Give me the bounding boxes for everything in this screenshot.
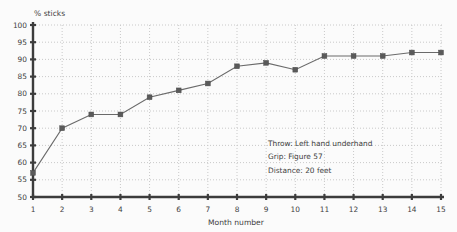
chart-canvas: 5055606570758085909510012345678910111213… bbox=[0, 0, 457, 232]
y-tick-label: 70 bbox=[18, 124, 28, 133]
x-tick-label: 14 bbox=[407, 205, 417, 214]
data-point-marker bbox=[31, 171, 36, 176]
y-tick-label: 85 bbox=[18, 72, 28, 81]
data-point-marker bbox=[176, 88, 181, 93]
y-tick-label: 50 bbox=[18, 193, 28, 202]
y-tick-label: 60 bbox=[18, 158, 28, 167]
x-tick-label: 2 bbox=[60, 205, 65, 214]
y-tick-label: 100 bbox=[13, 21, 27, 30]
axes bbox=[32, 22, 444, 198]
y-tick-label: 90 bbox=[18, 55, 28, 64]
x-tick-label: 10 bbox=[291, 205, 301, 214]
annotation-line: Throw: Left hand underhand bbox=[267, 139, 373, 148]
data-point-marker bbox=[351, 54, 356, 59]
y-tick-labels: 50556065707580859095100 bbox=[13, 21, 27, 202]
data-point-marker bbox=[235, 64, 240, 69]
y-axis-title: % sticks bbox=[34, 9, 65, 18]
x-tick-label: 1 bbox=[31, 205, 36, 214]
x-tick-label: 12 bbox=[349, 205, 358, 214]
y-tick-label: 55 bbox=[18, 175, 28, 184]
data-point-marker bbox=[89, 112, 94, 117]
y-tick-label: 75 bbox=[18, 107, 28, 116]
x-tick-label: 7 bbox=[206, 205, 211, 214]
data-point-marker bbox=[60, 126, 65, 131]
x-tick-label: 8 bbox=[235, 205, 240, 214]
data-point-marker bbox=[409, 50, 414, 55]
data-point-marker bbox=[264, 60, 269, 65]
data-point-marker bbox=[293, 67, 298, 72]
x-tick-label: 6 bbox=[176, 205, 181, 214]
y-tick-label: 65 bbox=[18, 141, 28, 150]
x-tick-labels: 123456789101112131415 bbox=[31, 205, 446, 214]
gridlines bbox=[33, 25, 443, 197]
data-point-marker bbox=[205, 81, 210, 86]
x-tick-label: 9 bbox=[264, 205, 269, 214]
data-point-marker bbox=[380, 54, 385, 59]
x-tick-label: 15 bbox=[436, 205, 446, 214]
annotation-block: Throw: Left hand underhandGrip: Figure 5… bbox=[267, 139, 373, 175]
y-tick-label: 80 bbox=[18, 89, 28, 98]
x-tick-label: 11 bbox=[320, 205, 330, 214]
x-tick-label: 4 bbox=[118, 205, 123, 214]
data-point-marker bbox=[439, 50, 444, 55]
x-tick-label: 3 bbox=[89, 205, 94, 214]
annotation-line: Grip: Figure 57 bbox=[268, 152, 323, 161]
line-chart: 5055606570758085909510012345678910111213… bbox=[0, 0, 457, 232]
x-tick-label: 13 bbox=[378, 205, 388, 214]
y-tick-label: 95 bbox=[18, 38, 28, 47]
annotation-line: Distance: 20 feet bbox=[268, 166, 332, 175]
data-point-marker bbox=[147, 95, 152, 100]
x-axis-title: Month number bbox=[208, 218, 265, 227]
data-point-marker bbox=[322, 54, 327, 59]
data-point-marker bbox=[118, 112, 123, 117]
x-tick-label: 5 bbox=[147, 205, 152, 214]
